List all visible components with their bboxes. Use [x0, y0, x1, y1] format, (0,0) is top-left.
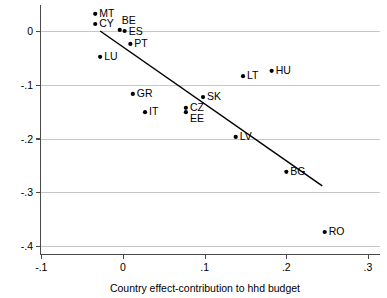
plot-canvas: MTCYBEESPTLUGRITCZEESKLTHULVBGRO 0-.1-.2…	[0, 0, 387, 298]
x-tick-label-.2: .2	[282, 261, 291, 273]
data-label-ro: RO	[329, 225, 345, 237]
data-point-it	[143, 110, 147, 114]
data-point-sk	[201, 95, 205, 99]
data-point-lv	[234, 135, 238, 139]
y-tick-label--.4: -.4	[21, 240, 33, 252]
data-label-cy: CY	[99, 17, 114, 29]
data-point-es	[123, 29, 127, 33]
data-label-lu: LU	[104, 50, 117, 62]
data-point-lu	[98, 55, 102, 59]
tick-marks-group	[36, 32, 369, 260]
data-point-mt	[93, 12, 97, 16]
data-point-ee	[184, 110, 188, 114]
data-point-cz	[184, 106, 188, 110]
data-label-it: IT	[149, 105, 159, 117]
data-label-bg: BG	[290, 165, 305, 177]
data-point-ro	[323, 230, 327, 234]
x-tick-label--.1: -.1	[35, 261, 47, 273]
data-point-pt	[128, 42, 132, 46]
data-point-bg	[284, 170, 288, 174]
data-label-gr: GR	[137, 87, 153, 99]
data-label-ee: EE	[190, 112, 204, 124]
scatter-plot-figure: MTCYBEESPTLUGRITCZEESKLTHULVBGRO 0-.1-.2…	[0, 0, 387, 298]
y-tick-labels-group: 0-.1-.2-.3-.4	[21, 25, 33, 252]
x-tick-labels-group: -.10.1.2.3	[35, 261, 372, 273]
data-label-pt: PT	[134, 37, 148, 49]
data-label-lv: LV	[240, 130, 252, 142]
data-label-es: ES	[129, 25, 143, 37]
data-label-cz: CZ	[190, 101, 205, 113]
data-label-lt: LT	[247, 69, 259, 81]
x-tick-label-0: 0	[120, 261, 126, 273]
data-point-labels-group: MTCYBEESPTLUGRITCZEESKLTHULVBGRO	[99, 7, 344, 237]
regression-line	[100, 31, 322, 186]
data-markers-group	[93, 12, 327, 234]
data-point-cy	[93, 22, 97, 26]
data-point-gr	[131, 92, 135, 96]
y-tick-label--.3: -.3	[21, 186, 33, 198]
data-point-hu	[270, 69, 274, 73]
data-point-lt	[241, 74, 245, 78]
x-axis-title: Country effect-contribution to hhd budge…	[110, 282, 300, 294]
data-point-be	[118, 28, 122, 32]
y-tick-label-0: 0	[27, 25, 33, 37]
axes-group	[40, 5, 380, 255]
gridlines-group	[40, 32, 380, 247]
data-label-sk: SK	[207, 90, 221, 102]
y-tick-label--.1: -.1	[21, 79, 33, 91]
data-label-hu: HU	[276, 64, 291, 76]
x-tick-label-.1: .1	[200, 261, 209, 273]
y-tick-label--.2: -.2	[21, 133, 33, 145]
x-tick-label-.3: .3	[364, 261, 373, 273]
fit-line-segment	[100, 31, 322, 186]
